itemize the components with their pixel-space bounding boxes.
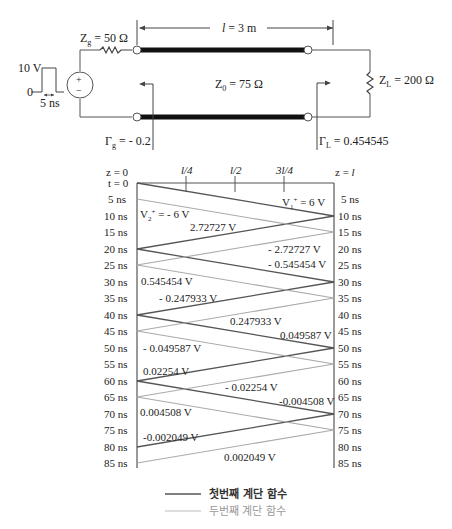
resistor-zl-icon	[367, 72, 373, 94]
svg-text:20 ns: 20 ns	[104, 243, 128, 255]
svg-text:0.545454 V: 0.545454 V	[141, 275, 193, 287]
svg-text:0.247933 V: 0.247933 V	[230, 315, 282, 327]
svg-text:45 ns: 45 ns	[104, 325, 128, 337]
svg-text:60 ns: 60 ns	[104, 375, 128, 387]
svg-text:t = 0: t = 0	[108, 177, 129, 189]
zg-label: Zg = 50 Ω	[80, 31, 128, 47]
svg-text:75 ns: 75 ns	[104, 424, 128, 436]
svg-text:-0.002049 V: -0.002049 V	[143, 431, 198, 443]
svg-text:35 ns: 35 ns	[338, 292, 362, 304]
voltage-source-icon: + −	[67, 72, 93, 98]
svg-text:55 ns: 55 ns	[104, 358, 128, 370]
svg-text:-0.004508 V: -0.004508 V	[279, 395, 334, 407]
svg-text:5 ns: 5 ns	[341, 193, 359, 205]
svg-text:25 ns: 25 ns	[104, 259, 128, 271]
right-time-axis: 5 ns 10 ns 15 ns 20 ns 25 ns 30 ns 35 ns…	[338, 193, 362, 469]
svg-text:85 ns: 85 ns	[338, 457, 362, 469]
svg-text:0.02254 V: 0.02254 V	[143, 365, 189, 377]
svg-text:50 ns: 50 ns	[104, 342, 128, 354]
pulse-baseline: 0	[27, 85, 33, 99]
svg-text:20 ns: 20 ns	[338, 243, 362, 255]
legend-second-label: 두번째 계단 함수	[209, 505, 286, 518]
length-label: l = 3 m	[222, 21, 257, 35]
svg-text:85 ns: 85 ns	[104, 457, 128, 469]
svg-text:80 ns: 80 ns	[104, 441, 128, 453]
svg-text:65 ns: 65 ns	[104, 391, 128, 403]
pulse-width: 5 ns	[40, 96, 60, 110]
pulse-amplitude: 10 V	[18, 61, 42, 75]
svg-text:75 ns: 75 ns	[338, 424, 362, 436]
svg-text:50 ns: 50 ns	[338, 342, 362, 354]
gamma-g-label: Γg = - 0.2	[105, 134, 151, 150]
svg-text:+: +	[76, 74, 82, 85]
svg-text:40 ns: 40 ns	[338, 309, 362, 321]
gamma-l-label: ΓL = 0.454545	[319, 134, 389, 150]
pulse-waveform: 10 V 0 5 ns	[18, 61, 64, 110]
svg-text:30 ns: 30 ns	[104, 276, 128, 288]
svg-text:0.002049 V: 0.002049 V	[224, 451, 276, 463]
tick-quarter: l/4	[181, 164, 193, 176]
legend-first-label: 첫번째 계단 함수	[209, 487, 287, 501]
svg-text:- 0.247933 V: - 0.247933 V	[159, 292, 217, 304]
circuit: 10 V 0 5 ns Zg = 50 Ω + − ZL = 200 Ω	[18, 20, 434, 150]
svg-text:15 ns: 15 ns	[338, 226, 362, 238]
svg-text:25 ns: 25 ns	[338, 259, 362, 271]
svg-text:- 0.545454 V: - 0.545454 V	[268, 258, 326, 270]
svg-text:70 ns: 70 ns	[104, 408, 128, 420]
svg-text:- 2.72727 V: - 2.72727 V	[268, 243, 321, 255]
svg-text:−: −	[76, 85, 82, 96]
svg-text:35 ns: 35 ns	[104, 292, 128, 304]
transmission-line-diagram: 10 V 0 5 ns Zg = 50 Ω + − ZL = 200 Ω	[0, 0, 452, 529]
z-l-label: z = l	[335, 166, 355, 178]
svg-text:10 ns: 10 ns	[338, 210, 362, 222]
tick-half: l/2	[230, 164, 242, 176]
v2-label: V2+ = - 6 V	[140, 208, 190, 223]
left-time-axis: t = 0 5 ns 10 ns 15 ns 20 ns 25 ns 30 ns…	[104, 177, 129, 469]
z0-label: Z0 = 75 Ω	[215, 77, 263, 93]
svg-text:80 ns: 80 ns	[338, 441, 362, 453]
svg-text:0.004508 V: 0.004508 V	[140, 406, 192, 418]
bounce-diagram: l/4 l/2 3l/4 z = 0 z = l t = 0 5 ns 10 n…	[104, 164, 362, 469]
svg-text:30 ns: 30 ns	[338, 276, 362, 288]
svg-text:- 0.02254 V: - 0.02254 V	[225, 381, 278, 393]
tick-three-quarter: 3l/4	[275, 164, 294, 176]
svg-text:60 ns: 60 ns	[338, 375, 362, 387]
svg-text:2.72727 V: 2.72727 V	[190, 221, 236, 233]
svg-text:15 ns: 15 ns	[104, 226, 128, 238]
svg-text:45 ns: 45 ns	[338, 325, 362, 337]
resistor-zg-icon	[100, 47, 132, 53]
svg-text:0.049587 V: 0.049587 V	[280, 329, 332, 341]
svg-text:- 0.049587 V: - 0.049587 V	[143, 342, 201, 354]
wave-amplitude-labels: 2.72727 V - 2.72727 V - 0.545454 V 0.545…	[140, 221, 334, 463]
zl-label: ZL = 200 Ω	[379, 73, 434, 89]
legend: 첫번째 계단 함수 두번째 계단 함수	[165, 487, 287, 518]
svg-text:40 ns: 40 ns	[104, 309, 128, 321]
svg-text:65 ns: 65 ns	[338, 391, 362, 403]
svg-text:5 ns: 5 ns	[108, 193, 126, 205]
svg-text:55 ns: 55 ns	[338, 358, 362, 370]
svg-text:70 ns: 70 ns	[338, 408, 362, 420]
svg-text:10 ns: 10 ns	[104, 210, 128, 222]
